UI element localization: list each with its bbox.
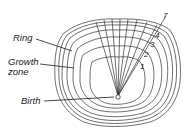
ring-number-2: 2 bbox=[144, 51, 148, 59]
birth-label: Birth bbox=[21, 96, 41, 106]
growth-zone-leader-line bbox=[40, 64, 74, 68]
ring-outline-3 bbox=[73, 37, 162, 112]
birth-point bbox=[116, 95, 120, 99]
ring-label: Ring bbox=[13, 33, 33, 43]
ring-number-1: 1 bbox=[140, 63, 144, 71]
ring-number-4: 4 bbox=[155, 32, 159, 40]
ring-number-7: 7 bbox=[163, 12, 167, 20]
ring-number-3: 3 bbox=[150, 41, 154, 49]
radial-lines bbox=[96, 16, 166, 96]
growth-zone-label-line2: zone bbox=[8, 67, 29, 77]
